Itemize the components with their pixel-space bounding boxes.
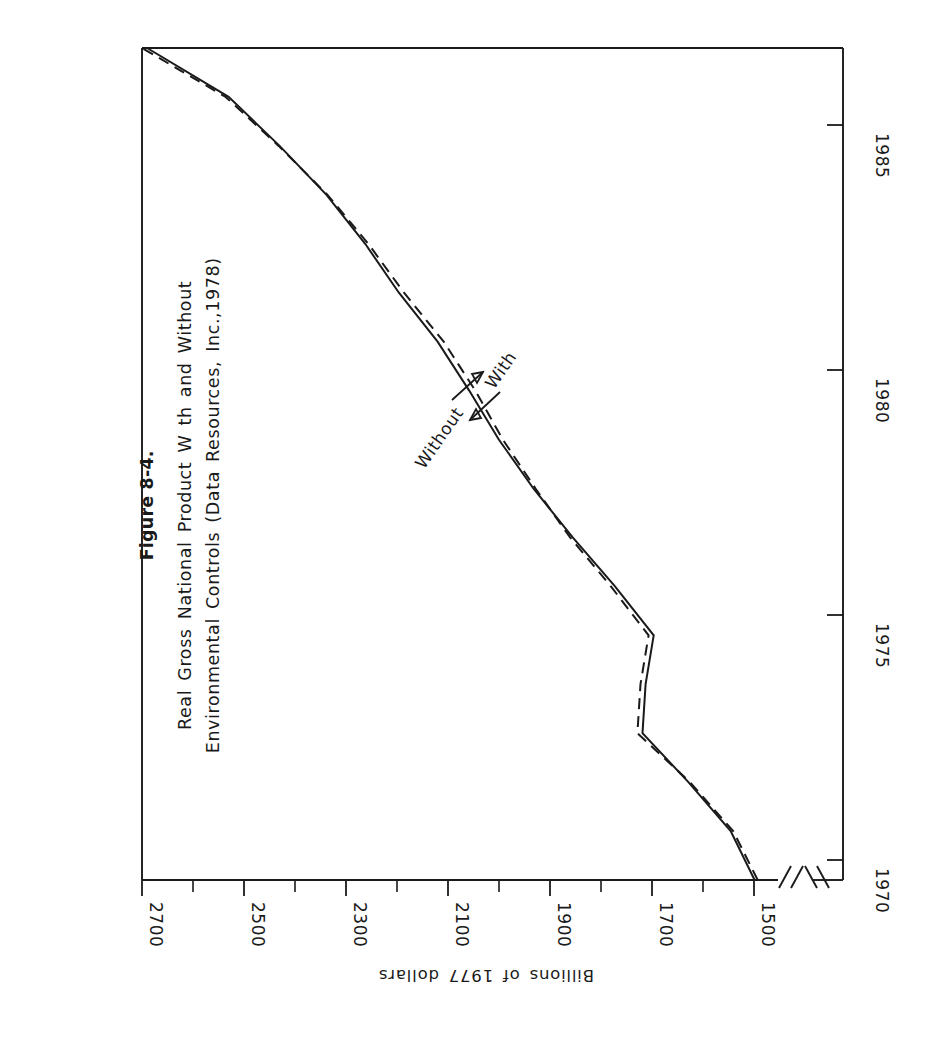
year-tick-label: 1975 <box>872 623 892 668</box>
year-tick-label: 1970 <box>872 868 892 913</box>
value-tick-label: 1900 <box>554 902 574 947</box>
value-axis-tick-labels: 2700 2500 2300 2100 1900 1700 1500 <box>146 902 778 947</box>
value-tick-label: 2500 <box>248 902 268 947</box>
annotation-label-without: Without <box>411 404 468 473</box>
value-tick-label: 1700 <box>656 902 676 947</box>
figure-root: Figure 8-4. Real Gross National Product … <box>0 0 933 1051</box>
value-tick-label: 1500 <box>758 902 778 947</box>
axis-frame <box>142 48 843 880</box>
year-tick-label: 1980 <box>872 378 892 423</box>
value-tick-label: 2700 <box>146 902 166 947</box>
series-line-with <box>147 48 755 880</box>
year-axis-ticks <box>827 125 843 860</box>
annotation-label-with: With <box>481 348 521 393</box>
axis-break-icon <box>779 866 829 888</box>
value-tick-label: 2100 <box>452 902 472 947</box>
chart-plot-area: 2700 2500 2300 2100 1900 1700 1500 1985 … <box>0 0 933 1051</box>
value-tick-label: 2300 <box>350 902 370 947</box>
year-tick-label: 1985 <box>872 133 892 178</box>
year-axis-tick-labels: 1985 1980 1975 1970 <box>872 133 892 913</box>
series-line-without <box>142 48 758 880</box>
value-axis-ticks <box>142 880 754 896</box>
